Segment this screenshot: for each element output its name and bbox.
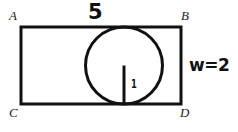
width-label: w=2 [189, 57, 229, 74]
vertex-label-d: D [180, 106, 189, 119]
rectangle-abcd [21, 27, 181, 104]
top-length-label: 5 [88, 2, 103, 23]
radius-length-label: 1 [131, 78, 137, 90]
vertex-label-a: A [9, 9, 17, 22]
geometry-diagram: A B C D 5 w=2 1 [0, 0, 238, 132]
vertex-label-b: B [181, 9, 189, 22]
vertex-label-c: C [9, 106, 18, 119]
